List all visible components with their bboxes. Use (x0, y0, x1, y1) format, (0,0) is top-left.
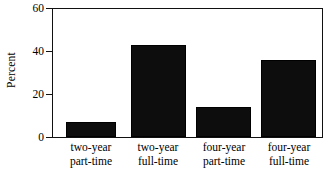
x-label-line1: two-year (56, 140, 126, 154)
bar-chart: Percent 60 40 20 0 two-year part-time tw… (0, 0, 328, 176)
x-label-line1: four-year (253, 140, 325, 154)
bar-four-year-full-time (261, 60, 316, 137)
y-tick-label: 60 (22, 3, 44, 14)
bar-two-year-part-time (66, 122, 116, 137)
plot-right-border (322, 8, 323, 138)
y-tick-60: 60 (22, 3, 44, 14)
plot-top-border (52, 8, 323, 9)
x-label-two-year-part-time: two-year part-time (56, 140, 126, 168)
bar-four-year-part-time (196, 107, 251, 137)
x-label-line2: full-time (253, 154, 325, 168)
x-label-four-year-part-time: four-year part-time (188, 140, 260, 168)
y-axis-title: Percent (3, 0, 19, 145)
y-tick-label: 0 (22, 132, 44, 143)
y-tick-label: 20 (22, 89, 44, 100)
x-label-line1: four-year (188, 140, 260, 154)
x-axis-line (52, 137, 323, 138)
bar-two-year-full-time (131, 45, 186, 137)
x-label-line1: two-year (123, 140, 193, 154)
y-axis-line (52, 8, 53, 138)
y-tick-label: 40 (22, 46, 44, 57)
y-tick-20: 20 (22, 89, 44, 100)
x-label-line2: part-time (188, 154, 260, 168)
y-tick-40: 40 (22, 46, 44, 57)
x-label-line2: full-time (123, 154, 193, 168)
x-label-line2: part-time (56, 154, 126, 168)
y-tick-0: 0 (22, 132, 44, 143)
x-label-two-year-full-time: two-year full-time (123, 140, 193, 168)
x-label-four-year-full-time: four-year full-time (253, 140, 325, 168)
